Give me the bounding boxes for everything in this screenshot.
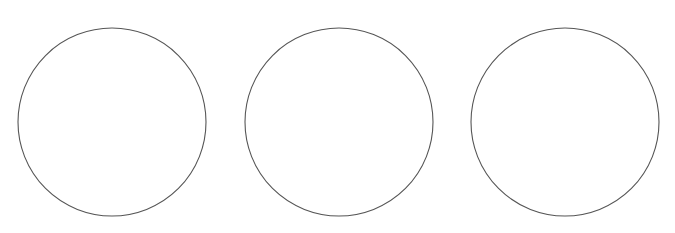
diagram-canvas bbox=[0, 0, 675, 233]
circle-1 bbox=[18, 28, 206, 216]
circle-2 bbox=[245, 28, 433, 216]
circle-3 bbox=[471, 28, 659, 216]
